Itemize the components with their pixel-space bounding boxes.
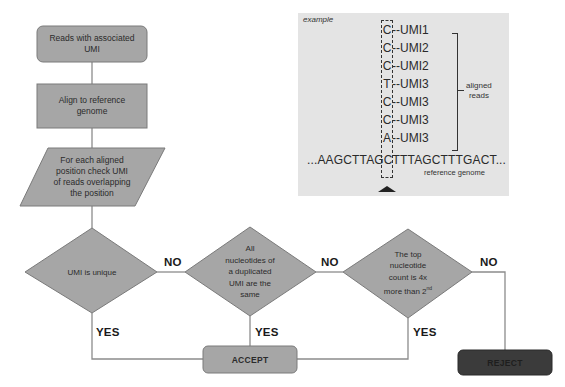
- decision3-line-3: count is 4x: [384, 272, 432, 284]
- decision2-yes-label: YES: [255, 326, 279, 338]
- read-umi: --UMI3: [392, 95, 429, 109]
- reads-bracket-tick: [458, 90, 464, 91]
- decision2-line-5: same: [225, 289, 274, 301]
- accept-label: ACCEPT: [203, 346, 297, 373]
- reads-bracket: [452, 33, 458, 151]
- aligned-reads-label: aligned reads: [466, 81, 492, 101]
- decision2-line-1: All: [225, 243, 274, 255]
- start-line-1: Reads with associated: [49, 33, 134, 44]
- decision1-no-label: NO: [164, 256, 182, 268]
- read-umi: --UMI2: [392, 41, 429, 55]
- check-line-2: position check UMI: [53, 166, 130, 177]
- read-umi: --UMI1: [392, 23, 429, 37]
- decision1-label: UMI is unique: [45, 262, 139, 282]
- start-node-label: Reads with associated UMI: [37, 26, 147, 62]
- decision3-line-1: The top: [384, 249, 432, 261]
- decision1-yes-label: YES: [96, 326, 120, 338]
- aligned-label-line-1: aligned: [466, 81, 492, 91]
- decision2-no-label: NO: [321, 256, 339, 268]
- reference-genome-sequence: ...AAGCTTAGCTTTAGCTTTGACT...: [307, 152, 506, 168]
- example-title: example: [303, 15, 333, 24]
- check-line-3: of reads overlapping: [53, 177, 130, 188]
- read-umi: --UMI3: [392, 77, 429, 91]
- connector-d3-yes: [297, 318, 408, 359]
- decision3-superscript: nd: [427, 285, 433, 291]
- check-line-4: the position: [53, 188, 130, 199]
- decision1-line-1: UMI is unique: [68, 267, 117, 278]
- check-node-label: For each aligned position check UMI of r…: [40, 148, 144, 206]
- decision3-line-4: more than 2nd: [384, 283, 432, 297]
- decision3-line-4-text: more than 2: [384, 287, 427, 296]
- reject-label: REJECT: [458, 350, 552, 375]
- reference-genome-label: reference genome: [424, 168, 485, 177]
- start-line-2: UMI: [49, 44, 134, 55]
- decision3-yes-label: YES: [413, 326, 437, 338]
- decision2-label: All nucleotides of a duplicated UMI are …: [210, 243, 290, 301]
- check-line-1: For each aligned: [53, 155, 130, 166]
- example-panel: example C--UMI1 C--UMI2 C--UMI2 T--UMI3 …: [298, 13, 509, 196]
- decision3-label: The top nucleotide count is 4x more than…: [366, 250, 450, 296]
- decision3-no-label: NO: [480, 256, 498, 268]
- read-umi: --UMI2: [392, 59, 429, 73]
- align-node-label: Align to reference genome: [37, 84, 147, 128]
- decision2-line-3: a duplicated: [225, 266, 274, 278]
- decision3-line-2: nucleotide: [384, 260, 432, 272]
- align-line-2: genome: [59, 106, 126, 117]
- decision2-line-4: UMI are the: [225, 278, 274, 290]
- decision2-line-2: nucleotides of: [225, 255, 274, 267]
- align-line-1: Align to reference: [59, 95, 126, 106]
- flowchart-canvas: Reads with associated UMI Align to refer…: [0, 0, 565, 387]
- aligned-label-line-2: reads: [466, 91, 492, 101]
- position-marker-triangle-icon: [378, 186, 396, 192]
- read-umi: --UMI3: [392, 113, 429, 127]
- read-umi: --UMI3: [392, 131, 429, 145]
- connector-d3-no: [472, 272, 505, 350]
